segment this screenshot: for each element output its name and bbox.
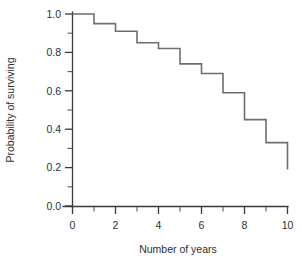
x-tick-label-0: 0 bbox=[70, 219, 76, 231]
x-tick-label-6: 6 bbox=[199, 219, 205, 231]
y-tick-label-0-4: 0.4 bbox=[46, 123, 61, 135]
x-axis-group: 0 2 4 6 8 10 bbox=[63, 207, 293, 232]
y-tick-label-0-2: 0.2 bbox=[46, 161, 61, 173]
y-axis-title: Probability of surviving bbox=[4, 57, 16, 162]
x-axis-title: Number of years bbox=[139, 243, 217, 255]
y-tick-label-0-6: 0.6 bbox=[46, 85, 61, 97]
chart-canvas: 1.0 0.8 0.6 0.4 0.2 0.0 bbox=[0, 0, 302, 268]
survival-curve-figure: 1.0 0.8 0.6 0.4 0.2 0.0 bbox=[0, 0, 302, 268]
y-tick-label-0-0: 0.0 bbox=[46, 200, 61, 212]
y-axis-group: 1.0 0.8 0.6 0.4 0.2 0.0 bbox=[46, 8, 72, 212]
x-axis-minor-ticks bbox=[94, 207, 266, 212]
x-tick-label-4: 4 bbox=[156, 219, 162, 231]
y-tick-label-0-8: 0.8 bbox=[46, 46, 61, 58]
y-tick-label-1-0: 1.0 bbox=[46, 8, 61, 20]
x-tick-label-2: 2 bbox=[113, 219, 119, 231]
x-tick-label-10: 10 bbox=[282, 219, 294, 231]
x-tick-label-8: 8 bbox=[242, 219, 248, 231]
y-axis-minor-ticks bbox=[68, 33, 73, 187]
survival-step-curve bbox=[73, 14, 288, 170]
